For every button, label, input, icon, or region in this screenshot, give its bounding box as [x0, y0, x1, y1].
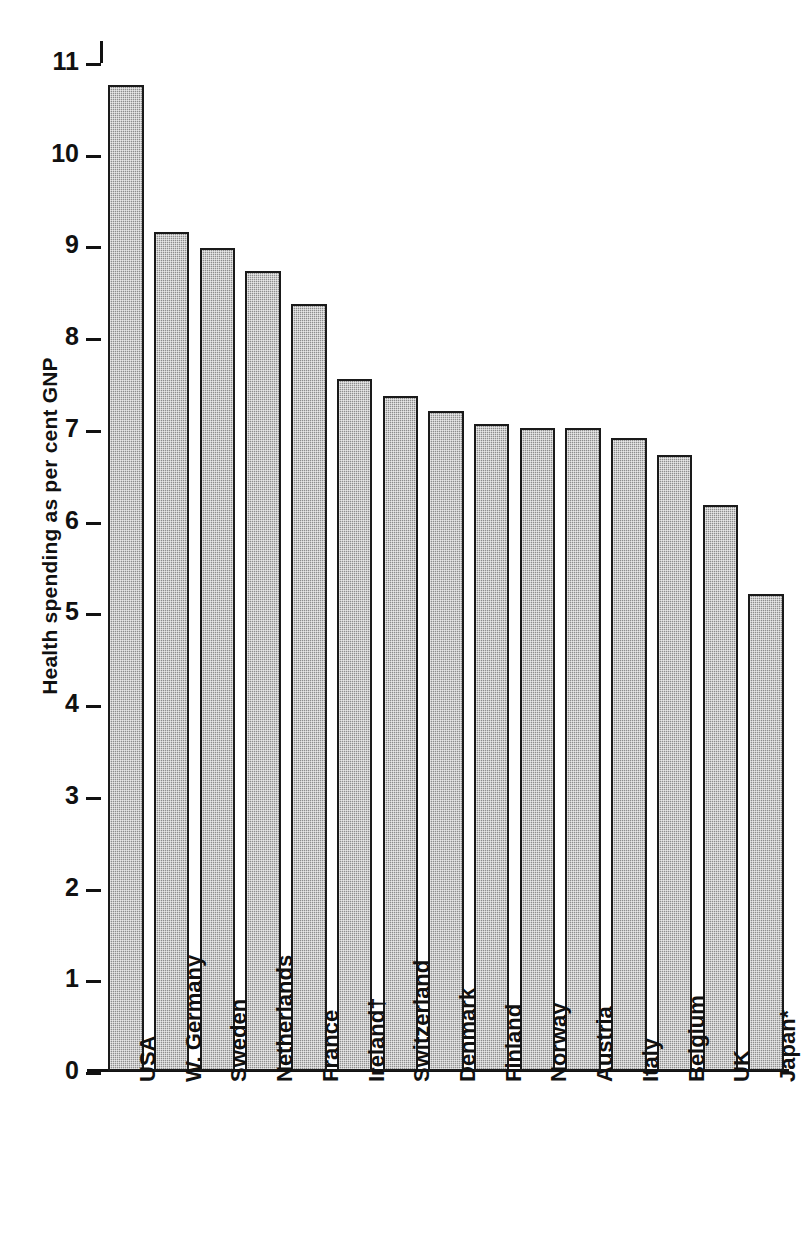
- bar-chart-figure: Health spending as per cent GNP 01234567…: [0, 0, 805, 1244]
- y-tick-label: 1: [65, 966, 79, 991]
- y-tick-label: 2: [65, 875, 79, 900]
- y-tick-label: 6: [65, 508, 79, 533]
- x-axis-category-label: Norway: [546, 862, 572, 1082]
- y-tick-mark: 2: [86, 889, 101, 892]
- y-tick-label: 3: [65, 783, 79, 808]
- x-axis-category-label: W. Germany: [181, 862, 207, 1082]
- x-axis-category-label: Switzerland: [409, 862, 435, 1082]
- y-tick-label: 5: [65, 599, 79, 624]
- y-tick-mark: 0: [86, 1072, 101, 1075]
- x-axis-category-label: Finland: [501, 862, 527, 1082]
- x-axis-category-label: Sweden: [226, 862, 252, 1082]
- x-axis-category-label: Denmark: [455, 862, 481, 1082]
- y-tick-mark: 1: [86, 980, 101, 983]
- x-axis-category-label: Italy: [638, 862, 664, 1082]
- y-tick-mark: 4: [86, 705, 101, 708]
- x-axis-category-label: Austria: [592, 862, 618, 1082]
- y-axis-top-elbow: [100, 41, 103, 63]
- x-axis-category-label: USA: [135, 862, 161, 1082]
- y-tick-mark: 10: [86, 155, 101, 158]
- y-tick-label: 8: [65, 324, 79, 349]
- x-axis-category-label: UK: [729, 862, 755, 1082]
- y-axis-title: Health spending as per cent GNP: [38, 316, 62, 736]
- x-axis-category-labels: USAW. GermanySwedenNetherlandsFranceIrel…: [103, 1082, 789, 1242]
- x-axis-category-label: Netherlands: [272, 862, 298, 1082]
- y-tick-label: 7: [65, 416, 79, 441]
- y-tick-mark: 8: [86, 338, 101, 341]
- x-axis-category-label: Ireland†: [364, 862, 390, 1082]
- x-axis-category-label: Belgium: [684, 862, 710, 1082]
- y-tick-mark: 9: [86, 246, 101, 249]
- y-tick-label: 4: [65, 691, 79, 716]
- y-tick-label: 11: [53, 49, 79, 74]
- y-tick-label: 9: [65, 232, 79, 257]
- y-tick-label: 10: [51, 141, 79, 166]
- y-tick-mark: 3: [86, 797, 101, 800]
- y-tick-mark: 11: [86, 63, 101, 66]
- x-axis-category-label: France: [318, 862, 344, 1082]
- x-axis-category-label: Japan*: [775, 862, 801, 1082]
- y-tick-mark: 6: [86, 522, 101, 525]
- y-tick-mark: 5: [86, 613, 101, 616]
- y-tick-mark: 7: [86, 430, 101, 433]
- y-tick-label: 0: [65, 1058, 79, 1083]
